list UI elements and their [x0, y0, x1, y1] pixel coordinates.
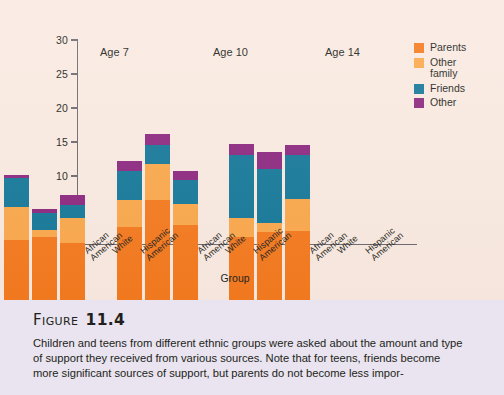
bar-segment [32, 237, 57, 300]
bar-stack [32, 209, 57, 300]
bar-segment [60, 218, 85, 243]
category-label: Hispanic American [364, 224, 406, 263]
figure-page: 051015202530 Support Age 7Age 10Age 14 A… [0, 0, 504, 395]
y-axis-tick [71, 39, 77, 40]
bar-segment [117, 171, 142, 200]
group-title: Age 10 [213, 46, 248, 58]
figure-heading: Figure11.4 [33, 311, 125, 329]
bar-segment [285, 199, 310, 230]
legend-item-label: Friends [430, 83, 465, 95]
bar-segment [229, 144, 254, 156]
y-axis-tick-label: 30 [44, 34, 68, 46]
figure-caption-block: Figure11.4 Children and teens from diffe… [0, 300, 504, 395]
legend-item-label: Parents [430, 42, 466, 54]
x-axis-title: Group [0, 272, 470, 284]
legend-item: Other [414, 97, 500, 109]
group-title: Age 14 [325, 46, 360, 58]
legend-item: Other family [414, 57, 500, 80]
bar-segment [32, 213, 57, 230]
figure-caption-text: Children and teens from different ethnic… [33, 336, 465, 382]
bar-segment [173, 204, 198, 225]
legend-color-swatch [414, 98, 424, 108]
legend-item: Parents [414, 42, 500, 54]
chart-legend: ParentsOther familyFriendsOther [414, 42, 500, 112]
y-axis-tick [71, 73, 77, 74]
legend-item-label: Other family [430, 57, 457, 80]
bar-segment [117, 200, 142, 227]
legend-color-swatch [414, 84, 424, 94]
bar-segment [60, 195, 85, 205]
y-axis-tick-label: 25 [44, 68, 68, 80]
legend-color-swatch [414, 43, 424, 53]
legend-color-swatch [414, 58, 424, 68]
bar-segment [145, 134, 170, 145]
bar-segment [145, 164, 170, 200]
chart-panel: 051015202530 Support Age 7Age 10Age 14 A… [0, 0, 504, 300]
bar-series-container [0, 96, 337, 300]
legend-item-label: Other [430, 97, 456, 109]
figure-label-word: Figure [33, 311, 78, 329]
bar-segment [257, 152, 282, 169]
bar-segment [173, 171, 198, 180]
figure-label-number: 11.4 [85, 311, 125, 329]
bar-segment [257, 169, 282, 223]
bar-segment [32, 230, 57, 237]
bar-segment [145, 145, 170, 164]
group-title: Age 7 [100, 46, 129, 58]
bar-segment [60, 205, 85, 218]
bar-segment [4, 207, 29, 240]
bar-segment [4, 178, 29, 207]
bar-segment [173, 180, 198, 204]
bar-segment [285, 155, 310, 199]
bar-segment [285, 145, 310, 155]
bar-segment [4, 240, 29, 300]
legend-item: Friends [414, 83, 500, 95]
bar-segment [229, 155, 254, 218]
bar-segment [117, 161, 142, 171]
